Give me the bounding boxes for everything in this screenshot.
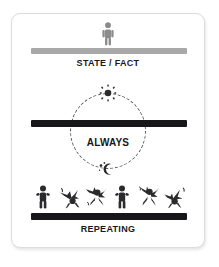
dashed-circle (70, 93, 146, 169)
standing-person-icon (31, 183, 55, 209)
repeating-caption: REPEATING (12, 224, 204, 234)
state-bar (31, 48, 187, 54)
standing-person-icon (110, 183, 134, 209)
always-label: ALWAYS (70, 137, 146, 148)
repeating-figure-row (31, 183, 187, 209)
jumping-person-icon (84, 183, 108, 209)
diagram-page: STATE / FACT (0, 0, 219, 267)
jumping-person-icon (163, 183, 187, 209)
diagram-card: STATE / FACT (11, 13, 205, 248)
state-caption: STATE / FACT (12, 58, 204, 68)
jumping-person-icon (137, 183, 161, 209)
standing-person-icon (101, 22, 116, 46)
always-bar (31, 120, 187, 127)
moon-stars-icon (98, 161, 118, 177)
jumping-person-icon (57, 183, 81, 209)
repeating-bar (31, 213, 187, 220)
sun-icon (99, 84, 117, 102)
always-circle-group: ALWAYS (70, 93, 146, 169)
